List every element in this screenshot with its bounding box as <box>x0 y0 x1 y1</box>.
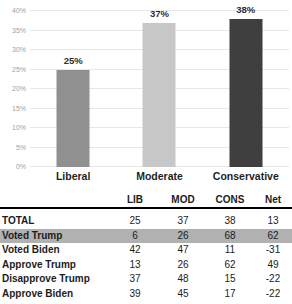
bar-value-label: 37% <box>150 8 169 19</box>
header-cell-lib: LIB <box>110 194 160 207</box>
ideology-bar-chart: 0%5%10%15%20%25%30%35%40%25%37%38% Liber… <box>0 0 292 190</box>
row-value: 37 <box>160 214 206 229</box>
row-label: Approve Biden <box>0 287 110 302</box>
row-value: 26 <box>160 229 206 244</box>
table-row: Disapprove Trump374815-22 <box>0 272 292 287</box>
row-value: 13 <box>110 258 160 273</box>
y-tick-label: 15% <box>0 105 26 113</box>
row-value: 49 <box>254 258 292 273</box>
table-row: Voted Biden424711-31 <box>0 243 292 258</box>
y-tick-label: 5% <box>0 144 26 152</box>
row-value: 62 <box>254 229 292 244</box>
bar-slot: 38% <box>203 11 289 167</box>
y-tick-label: 20% <box>0 85 26 93</box>
y-tick-label: 10% <box>0 124 26 132</box>
row-value: 68 <box>206 229 254 244</box>
row-value: 45 <box>160 287 206 302</box>
row-value: 47 <box>160 243 206 258</box>
row-value: 48 <box>160 272 206 287</box>
poll-crosstab-screen: 0%5%10%15%20%25%30%35%40%25%37%38% Liber… <box>0 0 292 304</box>
header-cell-cons: CONS <box>206 194 254 207</box>
y-tick-label: 30% <box>0 46 26 54</box>
crosstab-table: LIBMODCONSNet TOTAL25373813Voted Trump62… <box>0 190 292 302</box>
row-value: 38 <box>206 214 254 229</box>
y-tick-label: 40% <box>0 7 26 15</box>
row-value: 26 <box>160 258 206 273</box>
row-label: Disapprove Trump <box>0 272 110 287</box>
table-body: TOTAL25373813Voted Trump6266862Voted Bid… <box>0 209 292 302</box>
category-label-conservative: Conservative <box>203 170 289 182</box>
row-value: 42 <box>110 243 160 258</box>
header-cell-mod: MOD <box>160 194 206 207</box>
row-label: Approve Trump <box>0 258 110 273</box>
row-label: Voted Biden <box>0 243 110 258</box>
bar-slot: 37% <box>116 11 202 167</box>
chart-plot-area: 0%5%10%15%20%25%30%35%40%25%37%38% <box>30 11 289 167</box>
row-value: 6 <box>110 229 160 244</box>
row-value: 39 <box>110 287 160 302</box>
row-value: 62 <box>206 258 254 273</box>
y-tick-label: 35% <box>0 27 26 35</box>
table-row: Voted Trump6266862 <box>0 229 292 244</box>
bar-liberal <box>57 70 90 168</box>
table-row: Approve Biden394517-22 <box>0 287 292 302</box>
x-axis-labels: LiberalModerateConservative <box>30 170 289 182</box>
y-tick-label: 25% <box>0 66 26 74</box>
bar-conservative <box>229 19 262 167</box>
bar-moderate <box>143 23 176 167</box>
row-label: TOTAL <box>0 214 110 229</box>
table-row: TOTAL25373813 <box>0 214 292 229</box>
table-row: Approve Trump13266249 <box>0 258 292 273</box>
category-label-liberal: Liberal <box>30 170 116 182</box>
row-value: -31 <box>254 243 292 258</box>
y-tick-label: 0% <box>0 163 26 171</box>
row-value: 17 <box>206 287 254 302</box>
row-value: -22 <box>254 272 292 287</box>
row-value: 13 <box>254 214 292 229</box>
bar-value-label: 38% <box>236 4 255 15</box>
row-label: Voted Trump <box>0 229 110 244</box>
row-value: 25 <box>110 214 160 229</box>
row-value: 11 <box>206 243 254 258</box>
category-label-moderate: Moderate <box>116 170 202 182</box>
row-value: 15 <box>206 272 254 287</box>
row-value: -22 <box>254 287 292 302</box>
bar-slot: 25% <box>30 11 116 167</box>
header-cell-net: Net <box>254 194 292 207</box>
table-header-row: LIBMODCONSNet <box>0 190 292 209</box>
row-value: 37 <box>110 272 160 287</box>
bar-value-label: 25% <box>64 55 83 66</box>
